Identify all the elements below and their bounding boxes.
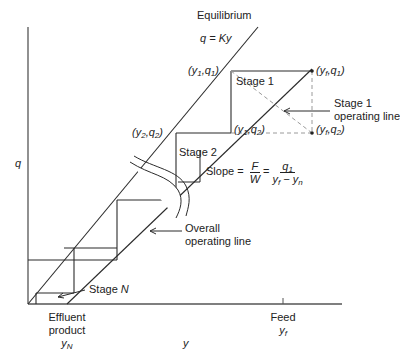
effluent-product-label: Effluent product yN <box>44 311 90 350</box>
stage2-label: Stage 2 <box>179 146 217 159</box>
label-y1q1: (y1,q1) <box>188 64 219 77</box>
point-yfq2 <box>310 131 314 135</box>
feed-label: Feed yf <box>265 311 301 337</box>
label-yfq2: (yf,q2) <box>316 123 345 136</box>
stage1-label: Stage 1 <box>236 75 274 88</box>
label-y2q2: (y2,q2) <box>132 126 163 139</box>
stageN-label: Stage N <box>89 283 129 296</box>
label-y1q2: (y1,q2) <box>234 123 265 136</box>
overall-operating-line-label: Overall operating line <box>185 222 251 248</box>
label-yfq1: (yf,q1) <box>316 64 345 77</box>
slope-equation: Slope = F W = q1 yf − yn <box>206 160 306 185</box>
stage1-operating-line-label: Stage 1 operating line <box>334 97 400 123</box>
overall-operating-line <box>67 69 312 304</box>
axis-break-symbol <box>130 162 181 218</box>
x-axis-label: y <box>183 337 189 350</box>
equilibrium-title: Equilibrium <box>197 9 251 22</box>
equilibrium-equation: q = Ky <box>200 32 232 45</box>
y-axis-label: q <box>15 157 21 170</box>
point-yfq1 <box>310 69 314 73</box>
